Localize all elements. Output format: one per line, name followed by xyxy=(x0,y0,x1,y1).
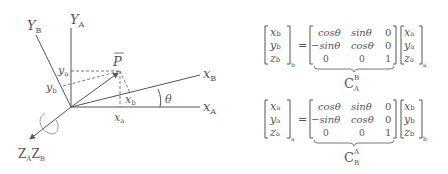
matrix-label-c-b-a: CBA xyxy=(344,74,360,93)
svg-text:xa: xa xyxy=(270,100,280,113)
svg-text:yb: yb xyxy=(269,39,281,52)
coordinate-rotation-figure: YA YB xA xB ZAZB P ya yb xa xb θ xb yb z… xyxy=(0,0,448,174)
svg-text:=: = xyxy=(298,39,307,52)
svg-text:0: 0 xyxy=(385,101,391,112)
angle-arc xyxy=(158,89,161,107)
svg-text:b: b xyxy=(291,61,295,68)
svg-text:a: a xyxy=(291,135,295,142)
equation-1: xb yb zb b = cosθ sinθ 0 −sinθ cosθ 0 0 … xyxy=(265,26,427,93)
svg-text:0: 0 xyxy=(323,54,329,64)
svg-text:0: 0 xyxy=(359,54,365,64)
svg-text:xb: xb xyxy=(270,26,281,39)
label-ya-axis: YA xyxy=(70,12,85,29)
svg-text:ya: ya xyxy=(269,113,280,126)
svg-text:0: 0 xyxy=(323,128,329,138)
svg-text:sinθ: sinθ xyxy=(351,101,372,112)
svg-text:cosθ: cosθ xyxy=(351,40,374,51)
label-yb-axis: YB xyxy=(27,18,42,35)
label-xb: xb xyxy=(125,93,136,107)
label-yb: yb xyxy=(45,81,57,95)
svg-text:xb: xb xyxy=(404,100,415,113)
label-ya: ya xyxy=(57,64,68,78)
svg-text:zb: zb xyxy=(403,126,415,139)
equation-2: xa ya za a = cosθ sinθ 0 −sinθ cosθ 0 0 … xyxy=(265,100,427,167)
svg-text:−sinθ: −sinθ xyxy=(311,114,340,125)
svg-text:b: b xyxy=(423,135,427,142)
svg-text:1: 1 xyxy=(385,127,391,138)
svg-text:ya: ya xyxy=(403,39,414,52)
label-xb-axis: xB xyxy=(203,66,216,83)
svg-text:cosθ: cosθ xyxy=(351,114,374,125)
svg-text:1: 1 xyxy=(385,53,391,64)
svg-text:0: 0 xyxy=(359,128,365,138)
figure-canvas: YA YB xA xB ZAZB P ya yb xa xb θ xb yb z… xyxy=(0,0,448,174)
svg-text:0: 0 xyxy=(385,114,391,125)
label-xa-axis: xA xyxy=(203,99,216,116)
svg-text:yb: yb xyxy=(403,113,415,126)
label-theta: θ xyxy=(165,93,172,106)
svg-text:−sinθ: −sinθ xyxy=(311,40,340,51)
matrix-label-c-a-b: CAB xyxy=(344,148,360,167)
svg-text:0: 0 xyxy=(385,27,391,38)
svg-text:cosθ: cosθ xyxy=(318,101,341,112)
svg-text:a: a xyxy=(423,61,427,68)
svg-text:=: = xyxy=(298,113,307,126)
svg-text:sinθ: sinθ xyxy=(351,27,372,38)
svg-text:0: 0 xyxy=(385,40,391,51)
svg-text:cosθ: cosθ xyxy=(318,27,341,38)
label-xa: xa xyxy=(114,111,124,125)
svg-text:zb: zb xyxy=(269,52,281,65)
label-point-p: P xyxy=(112,54,122,69)
svg-text:za: za xyxy=(403,52,414,65)
svg-text:xa: xa xyxy=(404,26,414,39)
label-z-axes: ZAZB xyxy=(18,147,45,163)
svg-text:za: za xyxy=(269,126,280,139)
